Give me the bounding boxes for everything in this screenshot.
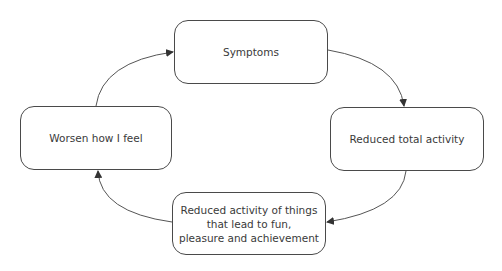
arrow-symptoms-to-reduced-total	[328, 50, 404, 106]
node-label: Reduced activity of things that lead to …	[179, 203, 319, 245]
node-label: Worsen how I feel	[49, 131, 142, 145]
arrow-reduced-total-to-reduced-fun	[327, 171, 406, 222]
node-symptoms: Symptoms	[174, 20, 328, 84]
arrow-reduced-fun-to-worsen	[98, 171, 172, 222]
node-reduced-total-activity: Reduced total activity	[330, 107, 484, 171]
arrow-worsen-to-symptoms	[96, 52, 173, 106]
node-reduced-fun-activity: Reduced activity of things that lead to …	[172, 192, 326, 255]
node-label: Reduced total activity	[350, 132, 465, 146]
node-worsen-how-i-feel: Worsen how I feel	[20, 106, 172, 170]
node-label: Symptoms	[223, 45, 279, 59]
